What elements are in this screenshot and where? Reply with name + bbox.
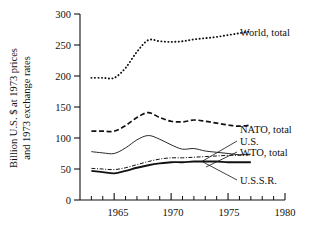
y-axis-tick-labels: 300 250 200 150 100 50 0 bbox=[55, 9, 71, 206]
y-tick-label-0: 0 bbox=[66, 195, 71, 206]
series-label-ussr: U.S.S.R. bbox=[240, 175, 277, 186]
series-line-u-s bbox=[91, 136, 250, 155]
y-axis-label: Billion U.S. $ at 1973 prices and 1973 e… bbox=[8, 48, 32, 168]
leader-line-wto bbox=[206, 152, 237, 167]
y-axis-label-line1: Billion U.S. $ at 1973 prices bbox=[8, 48, 19, 168]
x-tick-label-1970: 1970 bbox=[163, 207, 184, 218]
x-tick-label-1975: 1975 bbox=[219, 207, 240, 218]
y-tick-label-200: 200 bbox=[55, 71, 71, 82]
series-line-world-total bbox=[91, 31, 250, 78]
x-tick-label-1965: 1965 bbox=[108, 207, 129, 218]
x-axis-minor-ticks bbox=[91, 196, 273, 200]
y-tick-label-150: 150 bbox=[55, 102, 71, 113]
series-line-u-s-s-r bbox=[91, 162, 250, 174]
y-tick-label-50: 50 bbox=[61, 164, 72, 175]
leader-line-ussr bbox=[203, 162, 237, 180]
series-line-nato-total bbox=[91, 113, 250, 132]
series-label-us: U.S. bbox=[240, 136, 259, 147]
series-label-world: World, total bbox=[240, 27, 290, 38]
label-leader-lines bbox=[201, 141, 237, 180]
series-label-wto: WTO, total bbox=[240, 147, 288, 158]
y-axis-ticks bbox=[74, 14, 80, 200]
y-tick-label-300: 300 bbox=[55, 9, 71, 20]
x-axis-major-ticks bbox=[114, 193, 285, 200]
x-tick-label-1980: 1980 bbox=[275, 207, 296, 218]
series-label-nato: NATO, total bbox=[240, 124, 292, 135]
chart-figure: Billion U.S. $ at 1973 prices and 1973 e… bbox=[0, 0, 309, 235]
x-axis-tick-labels: 1965 1970 1975 1980 bbox=[108, 207, 296, 218]
y-tick-label-100: 100 bbox=[55, 133, 71, 144]
data-series-layer bbox=[91, 31, 250, 173]
line-chart: Billion U.S. $ at 1973 prices and 1973 e… bbox=[0, 0, 309, 235]
y-axis-label-line2: and 1973 exchange rates bbox=[21, 56, 32, 160]
y-tick-label-250: 250 bbox=[55, 40, 71, 51]
